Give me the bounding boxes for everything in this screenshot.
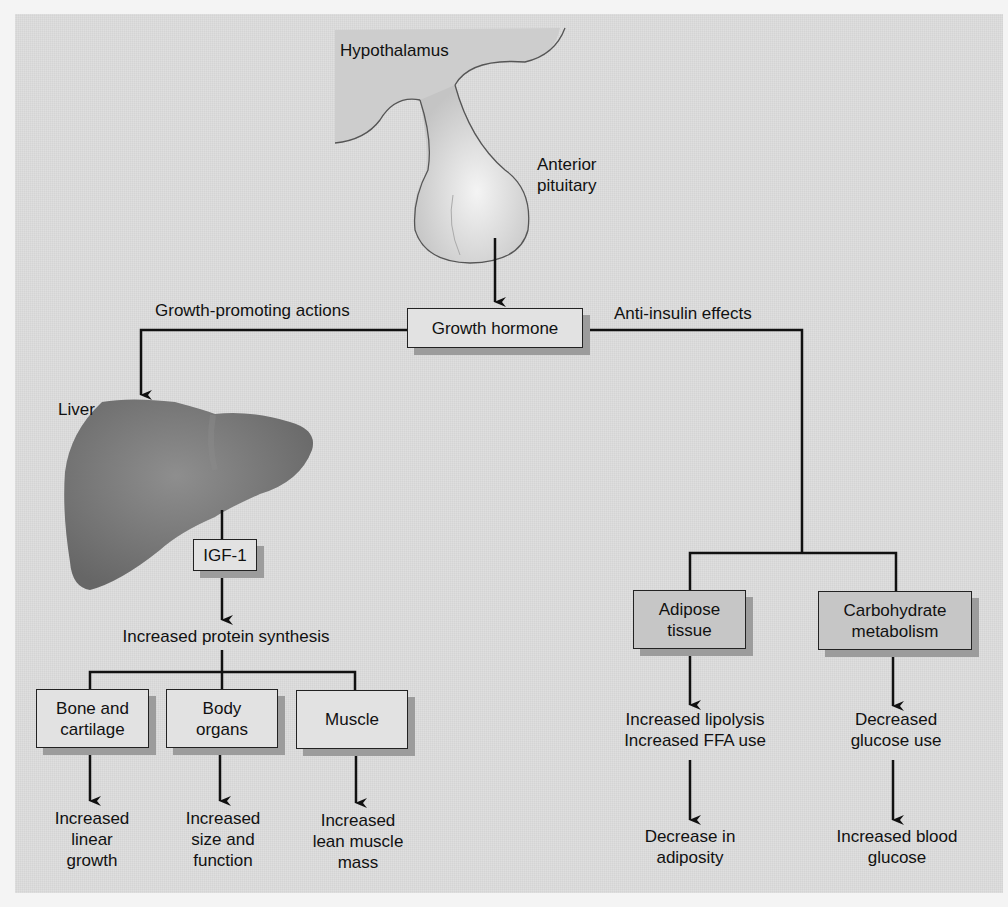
growth-promoting-label: Growth-promoting actions: [155, 300, 350, 321]
linear-growth-effect: Increased linear growth: [55, 808, 130, 871]
blood-glucose-effect: Increased blood glucose: [837, 826, 958, 868]
growth-hormone-box: Growth hormone: [407, 308, 583, 348]
adiposity-effect: Decrease in adiposity: [645, 826, 736, 868]
anterior-pituitary-label: Anterior pituitary: [537, 154, 597, 196]
lipolysis-effect: Increased lipolysis Increased FFA use: [624, 709, 766, 751]
liver-label: Liver: [58, 399, 95, 420]
diagram-graphics: [0, 0, 1008, 907]
glucose-use-effect: Decreased glucose use: [851, 709, 942, 751]
carbohydrate-metabolism-box: Carbohydratemetabolism: [818, 591, 972, 650]
body-organs-box: Bodyorgans: [166, 689, 278, 748]
protein-synthesis-label: Increased protein synthesis: [123, 626, 330, 647]
lean-muscle-effect: Increased lean muscle mass: [313, 810, 404, 873]
size-function-effect: Increased size and function: [186, 808, 261, 871]
adipose-tissue-box: Adiposetissue: [633, 590, 746, 649]
hypothalamus-label: Hypothalamus: [340, 40, 449, 61]
igf1-box: IGF-1: [193, 539, 257, 571]
bone-cartilage-box: Bone andcartilage: [36, 689, 149, 748]
anti-insulin-label: Anti-insulin effects: [614, 303, 752, 324]
pituitary-shape: [414, 85, 529, 263]
muscle-box: Muscle: [296, 690, 408, 749]
